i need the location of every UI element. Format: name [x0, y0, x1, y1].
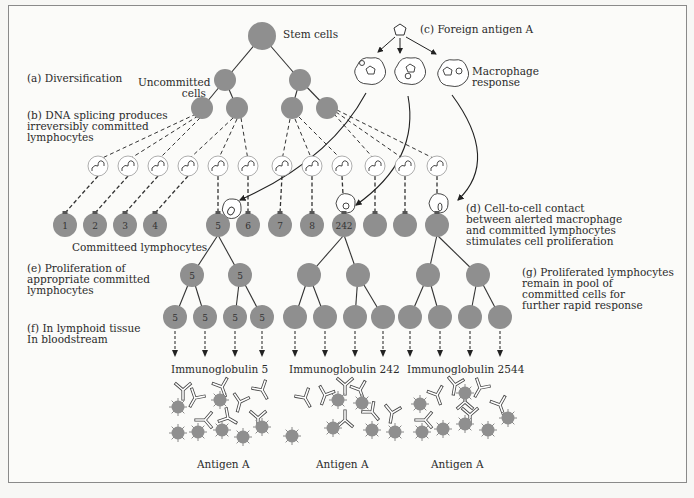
uncommitted-cell — [316, 97, 338, 119]
svg-text:3: 3 — [122, 221, 128, 231]
svg-text:242: 242 — [335, 221, 352, 231]
proliferated-lymphocyte — [313, 305, 337, 329]
antigen-icon — [169, 398, 187, 416]
proliferation-lines — [175, 235, 500, 317]
antibody-icon — [231, 394, 248, 412]
proliferated-lymphocyte — [428, 305, 452, 329]
stem-cell — [248, 22, 276, 50]
antibody-icon — [184, 389, 204, 409]
svg-text:6: 6 — [245, 221, 251, 231]
lymphoid-tissue-label: (f) In lymphoid tissue In bloodstream — [27, 323, 140, 345]
committed-lymphocytes-label: Committeed lymphocytes — [72, 242, 207, 253]
spliced-cells — [88, 156, 447, 176]
proliferated-lymphocytes: 555555 — [163, 263, 512, 357]
stem-cells-label: Stem cells — [283, 29, 338, 40]
svg-text:7: 7 — [277, 221, 283, 231]
svg-text:5: 5 — [237, 271, 243, 281]
antibody-icon — [176, 384, 190, 399]
uncommitted-cells-label: Uncommitted cells — [138, 77, 206, 99]
immunoglobulin-242-label: Immunoglobulin 242 — [289, 364, 400, 375]
antigen-icon — [324, 419, 342, 437]
svg-text:5: 5 — [189, 271, 195, 281]
foreign-antigen-label: (c) Foreign antigen A — [420, 24, 533, 35]
antigen-icon — [253, 418, 271, 436]
antibody-icon — [428, 387, 446, 406]
svg-text:5: 5 — [172, 313, 178, 323]
antigen-icon — [386, 423, 404, 441]
antigen-icon — [413, 423, 431, 441]
antibody-antigen-clusters — [169, 378, 517, 446]
proliferated-lymphocyte — [416, 263, 440, 287]
antibody-icon — [253, 381, 273, 401]
svg-text:8: 8 — [309, 221, 315, 231]
proliferated-lymphocyte — [458, 305, 482, 329]
uncommitted-cell — [226, 97, 248, 119]
proliferation-label: (e) Proliferation of appropriate committ… — [27, 263, 150, 296]
uncommitted-cell — [289, 69, 311, 91]
antigen-icon — [353, 394, 371, 412]
antibody-icon — [416, 413, 431, 427]
committed-lymphocytes: 12345678242 — [53, 211, 449, 237]
svg-text:5: 5 — [215, 221, 221, 231]
secretion-arrows — [175, 331, 500, 352]
uncommitted-cell — [191, 97, 213, 119]
macrophage-response-label: Macrophage response — [472, 66, 539, 88]
antibody-icon — [469, 379, 489, 399]
svg-text:5: 5 — [202, 313, 208, 323]
antigen-icon — [283, 427, 301, 445]
uncommitted-cell — [281, 97, 303, 119]
svg-text:4: 4 — [152, 221, 158, 231]
diversification-label: (a) Diversification — [27, 73, 122, 84]
antigen-icon — [213, 421, 231, 439]
proliferated-lymphocyte — [466, 263, 490, 287]
proliferated-lymphocyte — [343, 305, 367, 329]
antigen-a-label-3: Antigen A — [431, 459, 484, 470]
svg-text:5: 5 — [232, 313, 238, 323]
antigen-icon — [329, 391, 347, 409]
svg-text:1: 1 — [62, 221, 68, 231]
antigen-icon — [499, 409, 517, 427]
antigen-icon — [411, 395, 429, 413]
antigen-a-label-2: Antigen A — [316, 459, 369, 470]
proliferated-lymphocyte — [346, 263, 370, 287]
proliferated-lymphocyte — [398, 305, 422, 329]
proliferated-lymphocyte — [283, 305, 307, 329]
antigen-icon — [434, 420, 452, 438]
proliferated-pool-label: (g) Proliferated lymphocytes remain in p… — [522, 267, 674, 311]
antigen-icon — [211, 391, 229, 409]
svg-text:5: 5 — [259, 313, 265, 323]
macrophages — [355, 58, 469, 87]
proliferated-lymphocyte — [371, 305, 395, 329]
antibody-icon — [384, 406, 400, 423]
antibody-icon — [315, 387, 333, 406]
antigen-icon — [169, 424, 187, 442]
macrophage-contact-arrows — [240, 93, 478, 205]
contact-macrophages — [222, 194, 448, 219]
foreign-antigen — [394, 24, 406, 35]
antigen-arrows — [378, 37, 436, 54]
antigen-a-label-1: Antigen A — [197, 459, 250, 470]
antigen-icon — [363, 421, 381, 439]
antibody-icon — [296, 389, 316, 409]
antigen-icon — [479, 421, 497, 439]
proliferated-lymphocyte — [297, 263, 321, 287]
cell-contact-label: (d) Cell-to-cell contact between alerted… — [466, 203, 622, 247]
antibody-icon — [338, 411, 352, 426]
svg-text:2: 2 — [92, 221, 98, 231]
antigen-icon — [456, 415, 474, 433]
committed-lymphocyte — [425, 213, 449, 237]
immunoglobulin-2544-label: Immunoglobulin 2544 — [407, 364, 524, 375]
antigen-icon — [234, 428, 252, 446]
dna-splicing-label: (b) DNA splicing produces irreversibly c… — [27, 110, 168, 143]
immunoglobulin-5-label: Immunoglobulin 5 — [171, 364, 268, 375]
antigen-icon — [456, 384, 474, 402]
uncommitted-cell — [214, 69, 236, 91]
committed-lymphocyte — [393, 213, 417, 237]
committed-lymphocyte — [363, 213, 387, 237]
antigen-icon — [189, 423, 207, 441]
proliferated-lymphocyte — [488, 305, 512, 329]
